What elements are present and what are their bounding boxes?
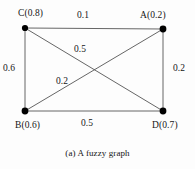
node-dot-b	[22, 108, 29, 115]
edge-label-c-a: 0.1	[77, 10, 89, 20]
figure-caption: (a) A fuzzy graph	[0, 148, 195, 158]
edge-label-c-d: 0.5	[74, 44, 86, 54]
node-label-d: D(0.7)	[152, 120, 178, 130]
node-dot-c	[22, 25, 28, 31]
node-dot-a	[160, 26, 167, 33]
node-label-c: C(0.8)	[18, 8, 43, 18]
edge-label-b-a: 0.2	[56, 76, 68, 86]
fuzzy-graph-figure: C(0.8) A(0.2) B(0.6) D(0.7) 0.1 0.6 0.2 …	[0, 0, 195, 169]
node-dot-d	[160, 108, 167, 115]
node-label-b: B(0.6)	[15, 120, 40, 130]
edge-line-c-a	[25, 28, 163, 29]
edge-label-b-d: 0.5	[81, 118, 93, 128]
graph-canvas	[0, 0, 195, 169]
edge-label-c-b: 0.6	[3, 63, 15, 73]
edge-label-a-d: 0.2	[173, 63, 185, 73]
node-label-a: A(0.2)	[140, 10, 166, 20]
